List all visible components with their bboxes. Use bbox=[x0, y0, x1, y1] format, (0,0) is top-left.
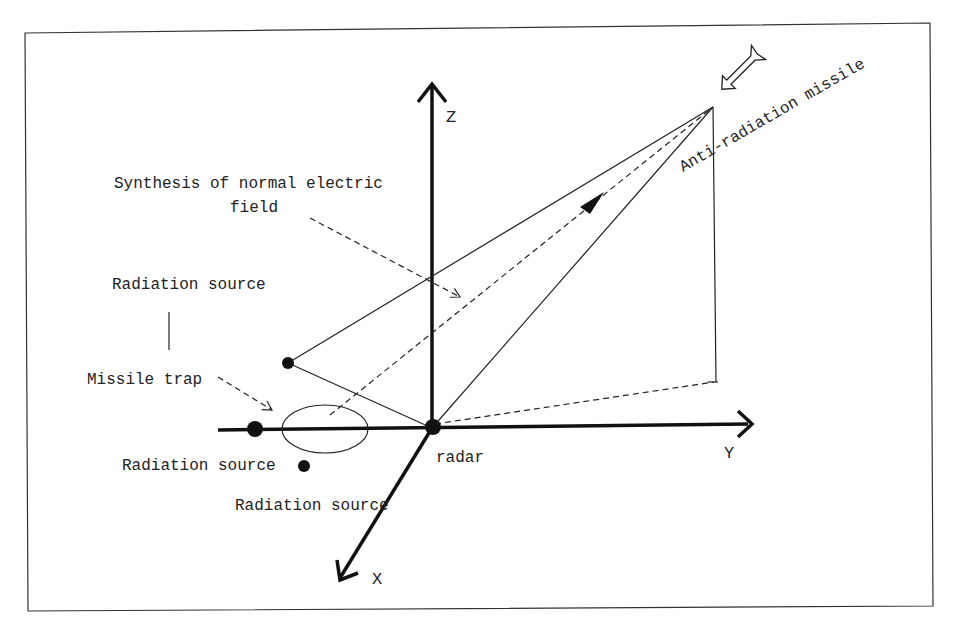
radar-decoy-diagram: Z Y X Anti-radiation missile Synthesis o… bbox=[0, 0, 955, 632]
radiation-source-bottom-label: Radiation source bbox=[235, 497, 389, 515]
radar-to-foot-dashed bbox=[435, 382, 714, 424]
missile-trap-pointer bbox=[218, 377, 272, 410]
dashed-lines bbox=[218, 107, 714, 424]
source-to-radar-line bbox=[288, 363, 432, 428]
missile-arrow-icon bbox=[715, 45, 766, 96]
radar-label: radar bbox=[436, 449, 484, 467]
synthesis-pointer bbox=[310, 218, 460, 297]
radiation-source-top-label: Radiation source bbox=[112, 276, 266, 294]
radiation-source-left-point bbox=[247, 421, 263, 437]
synthesis-label-line2: field bbox=[230, 199, 278, 217]
y-axis bbox=[218, 424, 748, 430]
radiation-source-bottom-point bbox=[298, 460, 310, 472]
x-axis-label: X bbox=[372, 570, 382, 589]
synthesis-label-line1: Synthesis of normal electric bbox=[114, 175, 383, 193]
trap-to-missile-dashed bbox=[330, 107, 713, 415]
z-axis-label: Z bbox=[446, 108, 456, 127]
radar-to-missile-line bbox=[432, 107, 713, 428]
radar-point bbox=[425, 419, 441, 435]
source-to-missile-line bbox=[288, 107, 713, 363]
points bbox=[247, 357, 441, 472]
y-axis-label: Y bbox=[724, 444, 734, 463]
radiation-source-left-label: Radiation source bbox=[122, 457, 276, 475]
radiation-source-top-point bbox=[282, 357, 294, 369]
missile-trap-label: Missile trap bbox=[87, 371, 202, 389]
